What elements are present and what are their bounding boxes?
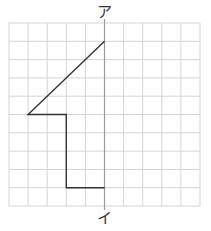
axis-label-bottom: イ bbox=[97, 211, 112, 226]
symmetry-grid-diagram bbox=[0, 0, 211, 231]
axis-label-top: ア bbox=[97, 5, 112, 20]
